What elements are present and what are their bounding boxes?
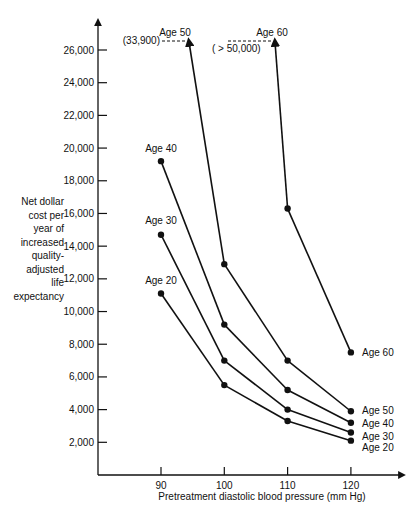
series-label: Age 60	[362, 347, 394, 358]
y-label-line: Net dollar	[21, 196, 64, 207]
series-age-20: Age 20Age 20	[145, 275, 394, 453]
y-label-line: year of	[33, 223, 64, 234]
x-tick-label: 100	[216, 480, 233, 491]
y-tick-label: 6,000	[69, 371, 94, 382]
series-segment	[189, 42, 224, 264]
data-point	[348, 437, 354, 443]
series-segment	[224, 264, 287, 360]
y-tick-label: 16,000	[63, 208, 94, 219]
series-label: Age 30	[362, 431, 394, 442]
chart: 2,0004,0006,0008,00010,00012,00014,00016…	[0, 0, 419, 519]
y-tick-label: 14,000	[63, 241, 94, 252]
y-tick-label: 8,000	[69, 339, 94, 350]
y-tick-label: 22,000	[63, 110, 94, 121]
x-tick-label: 90	[155, 480, 167, 491]
data-point	[158, 290, 164, 296]
y-label-line: expectancy	[13, 291, 64, 302]
data-point	[158, 158, 164, 164]
series-label: Age 30	[145, 215, 177, 226]
series-segment	[161, 161, 224, 324]
y-label-line: adjusted	[26, 264, 64, 275]
series-label: Age 40	[362, 418, 394, 429]
y-tick-label: 20,000	[63, 143, 94, 154]
data-point	[348, 349, 354, 355]
data-point	[284, 357, 290, 363]
data-point	[221, 382, 227, 388]
data-point	[284, 418, 290, 424]
series-segment	[288, 421, 351, 441]
data-point	[348, 429, 354, 435]
y-label-line: cost per	[28, 210, 64, 221]
series-segment	[288, 410, 351, 433]
data-point	[348, 408, 354, 414]
data-point	[221, 357, 227, 363]
series-segment	[161, 294, 224, 386]
y-tick-label: 10,000	[63, 306, 94, 317]
y-tick-label: 24,000	[63, 77, 94, 88]
y-tick-label: 4,000	[69, 404, 94, 415]
y-label-line: life	[51, 277, 64, 288]
series-segment	[161, 235, 224, 361]
series-label: Age 50	[362, 405, 394, 416]
offscale-annotation: ( > 50,000)	[212, 43, 261, 54]
x-axis-label: Pretreatment diastolic blood pressure (m…	[158, 491, 365, 502]
data-point	[284, 406, 290, 412]
offscale-annotation: (33,900)	[123, 35, 160, 46]
x-tick-label: 110	[280, 480, 296, 491]
x-tick-label: 120	[343, 480, 360, 491]
series-segment	[275, 42, 288, 209]
series-label: Age 20	[145, 275, 177, 286]
data-point	[221, 261, 227, 267]
data-point	[284, 205, 290, 211]
y-label-line: quality-	[32, 250, 64, 261]
series-label: Age 40	[145, 143, 177, 154]
series-segment	[288, 361, 351, 412]
y-tick-label: 18,000	[63, 175, 94, 186]
series-label: Age 60	[256, 27, 288, 38]
data-point	[284, 387, 290, 393]
series-lines: Age 20Age 20Age 30Age 30Age 40Age 40Age …	[123, 27, 394, 453]
series-label: Age 50	[159, 27, 191, 38]
series-segment	[288, 209, 351, 353]
series-label: Age 20	[362, 442, 394, 453]
series-age-40: Age 40Age 40	[145, 143, 394, 429]
series-segment	[224, 325, 287, 390]
y-tick-label: 26,000	[63, 45, 94, 56]
data-point	[348, 419, 354, 425]
data-point	[158, 232, 164, 238]
series-segment	[288, 390, 351, 423]
series-age-30: Age 30Age 30	[145, 215, 394, 442]
y-tick-label: 12,000	[63, 273, 94, 284]
series-age-60: Age 60Age 60( > 50,000)	[212, 27, 394, 358]
y-axis-label: Net dollarcost peryear ofincreasedqualit…	[13, 196, 64, 302]
y-tick-label: 2,000	[69, 437, 94, 448]
data-point	[221, 321, 227, 327]
y-label-line: increased	[21, 237, 64, 248]
